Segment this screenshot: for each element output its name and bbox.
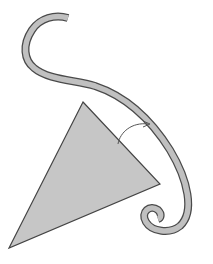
- diagram-canvas: [0, 0, 213, 264]
- triangle: [9, 102, 160, 248]
- rotation-arrow: [118, 121, 150, 144]
- diagram-svg: [0, 0, 213, 264]
